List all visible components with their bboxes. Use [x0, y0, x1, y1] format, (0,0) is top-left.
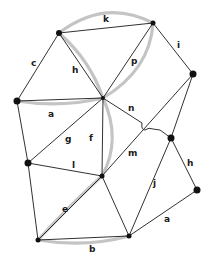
- label-a-left: a: [48, 109, 54, 119]
- node-n1: [56, 30, 62, 36]
- node-n5: [101, 96, 105, 100]
- label-n: n: [128, 103, 134, 113]
- label-m: m: [128, 148, 137, 158]
- label-h-right: h: [187, 158, 193, 168]
- edge-l: [28, 163, 102, 176]
- label-p: p: [131, 56, 138, 66]
- node-n2: [151, 21, 156, 26]
- edge-c: [17, 33, 59, 101]
- edge-n6-n3: [171, 74, 193, 138]
- label-i: i: [177, 40, 180, 50]
- label-j: j: [152, 178, 156, 188]
- label-k: k: [103, 14, 110, 24]
- edge-n8-n11: [102, 176, 129, 236]
- node-n8: [100, 174, 105, 179]
- node-n9: [194, 187, 201, 194]
- edge-g: [28, 98, 103, 163]
- label-h-top: h: [72, 65, 78, 75]
- highlight-f: [102, 98, 112, 176]
- node-n6: [168, 135, 175, 142]
- label-a-bottom: a: [164, 214, 170, 224]
- graph-diagram: k c h p i a n g f m h l j e a b: [0, 0, 211, 259]
- edge-n4-n7: [17, 101, 28, 163]
- label-l: l: [72, 160, 75, 170]
- label-b: b: [89, 244, 96, 254]
- label-f: f: [89, 133, 93, 143]
- label-e: e: [62, 204, 68, 214]
- label-c: c: [31, 58, 36, 68]
- label-g: g: [65, 134, 71, 144]
- node-n11: [127, 234, 132, 239]
- edge-e: [38, 176, 102, 240]
- edge-i: [153, 23, 193, 74]
- edge-f: [102, 98, 103, 176]
- node-n4: [14, 98, 21, 105]
- edge-h: [59, 33, 103, 98]
- highlight-arc-top: [59, 13, 153, 98]
- edge-n7-n10: [28, 163, 38, 240]
- edge-p: [103, 23, 153, 98]
- node-n10: [36, 238, 41, 243]
- node-n7: [25, 160, 32, 167]
- node-n3: [190, 71, 197, 78]
